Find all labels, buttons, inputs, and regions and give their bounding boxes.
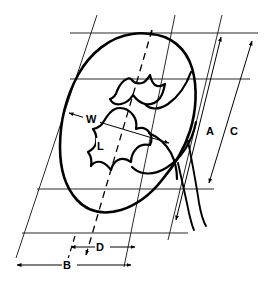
dimension-w-group: W: [69, 111, 169, 143]
diagram-canvas: W L A C D B: [0, 0, 274, 283]
dimension-c-label: C: [230, 125, 238, 137]
kidney-outer-border: [60, 33, 196, 212]
dimension-b-label: B: [63, 259, 71, 271]
oblique-line-middle: [124, 15, 175, 267]
kidney-measurement-diagram: W L A C D B: [0, 0, 274, 283]
oblique-line-left: [16, 15, 97, 258]
dimension-a-group: A: [176, 37, 221, 220]
kidney-outline: [60, 33, 206, 230]
oblique-reference-lines: [16, 15, 222, 267]
dimension-w-label: W: [86, 113, 97, 125]
ureter-line-inner: [178, 163, 194, 230]
dimension-b-group: B: [17, 258, 131, 272]
dimension-l-label: L: [97, 140, 104, 152]
dimension-d-label: D: [96, 241, 104, 253]
kidney-hilum-lower-curve: [132, 122, 196, 174]
dimension-l-group: L: [96, 138, 109, 152]
dimension-d-group: D: [67, 236, 135, 262]
renal-pelvis-calyces: [88, 75, 177, 179]
dimension-c-arrow: [209, 41, 252, 183]
ureter-line-outer: [188, 141, 206, 226]
dimension-a-label: A: [206, 125, 214, 137]
dimension-c-group: C: [209, 41, 252, 183]
